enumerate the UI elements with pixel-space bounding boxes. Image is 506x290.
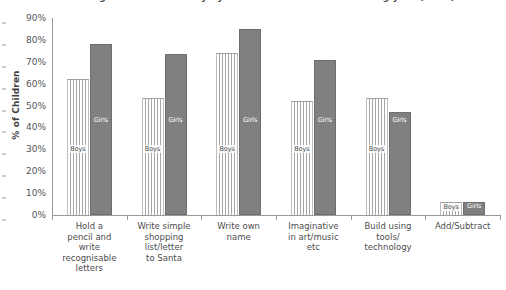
y-axis-tick-label: 90% [6, 13, 52, 23]
bar-boys: Boys [366, 98, 388, 215]
x-axis-category-label: Imaginativein art/musicetc [276, 221, 351, 253]
bar-series-label: Girls [168, 116, 182, 124]
x-axis-category-label: Write ownname [201, 221, 276, 242]
x-axis-tick-mark [500, 215, 501, 220]
y-axis-tick-mark [2, 198, 6, 199]
x-axis-tick-mark [127, 215, 128, 220]
y-axis-tick-mark [2, 220, 6, 221]
y-axis-tick-mark [2, 132, 6, 133]
y-axis-tick-mark [2, 66, 6, 67]
bar-boys: Boys [291, 101, 313, 215]
x-axis-tick-mark [52, 215, 53, 220]
bar-series-label: Boys [144, 145, 161, 153]
x-axis-category-label: Hold apencil andwriterecognisableletters [52, 221, 127, 274]
y-axis-tick-label: 80% [6, 35, 52, 45]
bar-boys: Boys [67, 79, 89, 215]
y-axis-tick-label: 20% [6, 166, 52, 176]
x-axis-tick-mark [201, 215, 202, 220]
y-axis-tick-mark [2, 44, 6, 45]
y-axis-tick-mark [2, 88, 6, 89]
bar-girls: Girls [90, 44, 112, 215]
bar-group: BoysGirls [142, 18, 187, 215]
bar-boys: Boys [216, 53, 238, 215]
y-axis-tick-label: 60% [6, 79, 52, 89]
bar-girls: Girls [165, 54, 187, 215]
x-axis-category-label: Write simpleshoppinglist/letterto Santa [127, 221, 202, 263]
y-axis-tick-label: 70% [6, 57, 52, 67]
plot-area: 0%10%20%30%40%50%60%70%80%90%BoysGirlsBo… [52, 18, 500, 215]
bar-boys: Boys [142, 98, 164, 215]
bar-group: BoysGirls [440, 18, 485, 215]
y-axis-tick-mark [2, 154, 6, 155]
bar-series-label: Boys [368, 145, 385, 153]
bar-group: BoysGirls [291, 18, 336, 215]
chart-title: Percentage of children ready by skill at… [0, 0, 506, 2]
bar-group: BoysGirls [366, 18, 411, 215]
y-axis-tick-label: 0% [6, 210, 52, 220]
bar-series-label: Girls [94, 116, 108, 124]
bar-girls: Girls [389, 112, 411, 215]
bar-boys: Boys [440, 202, 462, 215]
y-axis-tick-mark [2, 176, 6, 177]
y-axis-tick-label: 50% [6, 101, 52, 111]
x-axis-labels: Hold apencil andwriterecognisableletters… [52, 221, 501, 289]
y-axis-tick-label: 30% [6, 144, 52, 154]
bar-series-label: Boys [293, 145, 310, 153]
x-axis-category-label: Add/Subtract [425, 221, 500, 232]
bar-series-label: Girls [318, 116, 332, 124]
x-axis-category-label: Build usingtools/technology [351, 221, 426, 253]
bar-chart: Percentage of children ready by skill at… [0, 0, 506, 290]
bar-series-label: Boys [69, 145, 86, 153]
bar-series-label: Girls [243, 116, 257, 124]
bar-series-label: Girls [467, 202, 481, 210]
x-axis-tick-mark [425, 215, 426, 220]
bar-group: BoysGirls [216, 18, 261, 215]
bar-series-label: Boys [219, 145, 236, 153]
x-axis-tick-mark [351, 215, 352, 220]
y-axis-tick-mark [2, 23, 6, 24]
y-axis-tick-label: 40% [6, 122, 52, 132]
y-axis-tick-label: 10% [6, 188, 52, 198]
bar-girls: Girls [239, 29, 261, 215]
bar-series-label: Girls [392, 116, 406, 124]
bar-girls: Girls [463, 202, 485, 215]
bar-girls: Girls [314, 60, 336, 215]
bar-series-label: Boys [443, 203, 460, 211]
bar-group: BoysGirls [67, 18, 112, 215]
y-axis-tick-mark [2, 110, 6, 111]
x-axis-tick-mark [276, 215, 277, 220]
